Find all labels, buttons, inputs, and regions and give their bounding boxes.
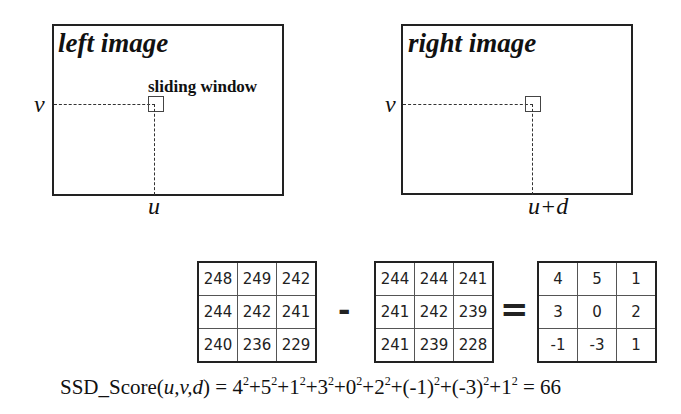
matrix-cell: 4 <box>538 262 578 296</box>
equals-operator: = <box>500 292 529 326</box>
matrix-cell: 228 <box>454 329 494 363</box>
matrix-cell: 239 <box>454 296 494 329</box>
formula-close-paren: ) <box>203 375 210 399</box>
ssd-score-formula: SSD_Score(u,v,d) = 42+52+12+32+02+22+(-1… <box>60 377 561 398</box>
sliding-window-label: sliding window <box>148 78 257 95</box>
difference-matrix: 4 5 1 3 0 2 -1 -3 1 <box>537 261 657 363</box>
formula-plus: + <box>362 375 374 399</box>
left-window-matrix: 248 249 242 244 242 241 240 236 229 <box>197 261 317 363</box>
left-u-label: u <box>148 194 160 218</box>
matrix-row: 3 0 2 <box>538 296 656 329</box>
matrix-row: 241 239 228 <box>375 329 493 363</box>
right-v-label: v <box>385 92 396 116</box>
matrix-cell: 241 <box>277 296 317 329</box>
minus-operator: - <box>338 296 350 326</box>
matrix-cell: 242 <box>277 262 317 296</box>
matrix-cell: 241 <box>375 296 415 329</box>
formula-equals: = <box>523 375 535 399</box>
formula-equals: = <box>215 375 227 399</box>
matrix-row: 244 242 241 <box>198 296 316 329</box>
matrix-cell: 244 <box>198 296 238 329</box>
matrix-row: 241 242 239 <box>375 296 493 329</box>
matrix-cell: 229 <box>277 329 317 363</box>
right-window-matrix: 244 244 241 241 242 239 241 239 228 <box>374 261 494 363</box>
matrix-cell: -1 <box>538 329 578 363</box>
formula-term: 1 <box>501 375 512 399</box>
formula-plus: + <box>334 375 346 399</box>
matrix-cell: 244 <box>375 262 415 296</box>
formula-term: 0 <box>346 375 357 399</box>
matrix-cell: 1 <box>617 329 657 363</box>
formula-function-name: SSD_Score( <box>60 375 164 399</box>
formula-plus: + <box>306 375 318 399</box>
matrix-cell: 0 <box>578 296 617 329</box>
formula-args: u,v,d <box>164 375 203 399</box>
formula-term: 5 <box>261 375 272 399</box>
formula-term: 4 <box>232 375 243 399</box>
matrix-cell: 242 <box>238 296 277 329</box>
matrix-cell: 2 <box>617 296 657 329</box>
matrix-cell: 3 <box>538 296 578 329</box>
left-image-title: left image <box>58 30 168 57</box>
right-image-title: right image <box>408 30 536 57</box>
matrix-cell: -3 <box>578 329 617 363</box>
formula-exponent: 2 <box>512 374 518 388</box>
matrix-row: -1 -3 1 <box>538 329 656 363</box>
right-ud-label: u+d <box>528 194 568 218</box>
matrix-cell: 5 <box>578 262 617 296</box>
matrix-cell: 240 <box>198 329 238 363</box>
formula-plus: + <box>440 375 452 399</box>
matrix-cell: 1 <box>617 262 657 296</box>
matrix-row: 248 249 242 <box>198 262 316 296</box>
formula-plus: + <box>249 375 261 399</box>
left-sliding-window <box>148 96 164 112</box>
left-v-dashed-line <box>54 104 155 105</box>
matrix-cell: 249 <box>238 262 277 296</box>
right-v-dashed-line <box>403 104 533 105</box>
matrix-row: 240 236 229 <box>198 329 316 363</box>
left-u-dashed-line <box>154 104 155 195</box>
formula-plus: + <box>391 375 403 399</box>
formula-plus: + <box>277 375 289 399</box>
matrix-cell: 242 <box>415 296 454 329</box>
matrix-cell: 236 <box>238 329 277 363</box>
formula-term: (-3) <box>452 375 483 399</box>
matrix-cell: 239 <box>415 329 454 363</box>
formula-plus: + <box>489 375 501 399</box>
matrix-cell: 244 <box>415 262 454 296</box>
right-ud-dashed-line <box>532 104 533 195</box>
right-sliding-window <box>525 96 541 112</box>
matrix-cell: 241 <box>454 262 494 296</box>
formula-term: 3 <box>317 375 328 399</box>
matrix-row: 4 5 1 <box>538 262 656 296</box>
left-v-label: v <box>34 92 45 116</box>
formula-term: 2 <box>374 375 385 399</box>
formula-result: 66 <box>540 375 561 399</box>
matrix-cell: 241 <box>375 329 415 363</box>
matrix-row: 244 244 241 <box>375 262 493 296</box>
matrix-cell: 248 <box>198 262 238 296</box>
formula-term: 1 <box>289 375 300 399</box>
formula-term: (-1) <box>403 375 434 399</box>
